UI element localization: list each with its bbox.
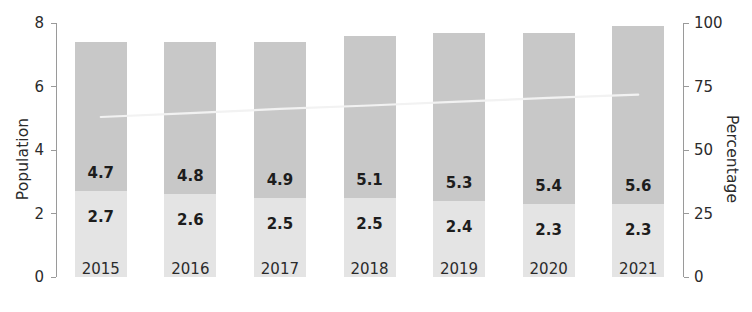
y-tick-right <box>684 23 689 24</box>
bar-value-label-top: 4.8 <box>164 169 216 184</box>
bar-group[interactable]: 2.35.4 <box>523 33 575 277</box>
bar-group[interactable]: 2.74.7 <box>75 42 127 277</box>
bar-value-label-top: 5.3 <box>433 176 485 191</box>
bar-value-label-top: 4.9 <box>254 173 306 188</box>
bar-group[interactable]: 2.55.1 <box>344 36 396 277</box>
bar-value-label-bottom: 2.3 <box>523 223 575 238</box>
y-tick-label-left: 4 <box>4 143 44 158</box>
bar-group[interactable]: 2.45.3 <box>433 33 485 277</box>
x-tick-label: 2016 <box>154 262 226 277</box>
chart-container: Population Percentage 024680255075100 2.… <box>0 0 752 312</box>
y-axis-label-right: Percentage <box>723 99 741 219</box>
y-tick-label-right: 75 <box>694 80 740 95</box>
x-tick-label: 2019 <box>423 262 495 277</box>
bar-value-label-bottom: 2.3 <box>612 223 664 238</box>
bar-value-label-bottom: 2.6 <box>164 213 216 228</box>
bar-group[interactable]: 2.35.6 <box>612 26 664 277</box>
y-tick-right <box>684 150 689 151</box>
y-tick-label-left: 8 <box>4 16 44 31</box>
bar-group[interactable]: 2.54.9 <box>254 42 306 277</box>
y-tick-label-left: 0 <box>4 270 44 285</box>
bar-value-label-bottom: 2.5 <box>254 217 306 232</box>
y-tick-label-right: 50 <box>694 143 740 158</box>
bar-value-label-top: 5.1 <box>344 173 396 188</box>
y-tick-right <box>684 213 689 214</box>
y-tick-label-right: 100 <box>694 16 740 31</box>
y-tick-label-left: 2 <box>4 207 44 222</box>
y-tick-label-right: 25 <box>694 207 740 222</box>
x-tick-label: 2020 <box>513 262 585 277</box>
y-tick-label-left: 6 <box>4 80 44 95</box>
bar-value-label-top: 5.6 <box>612 179 664 194</box>
x-tick-label: 2018 <box>334 262 406 277</box>
bar-value-label-bottom: 2.5 <box>344 217 396 232</box>
x-tick-label: 2015 <box>65 262 137 277</box>
x-tick-label: 2017 <box>244 262 316 277</box>
plot-area: 2.74.72.64.82.54.92.55.12.45.32.35.42.35… <box>56 23 683 277</box>
bar-value-label-top: 4.7 <box>75 166 127 181</box>
bar-value-label-bottom: 2.4 <box>433 220 485 235</box>
y-tick-label-right: 0 <box>694 270 740 285</box>
y-tick-right <box>684 86 689 87</box>
bar-value-label-top: 5.4 <box>523 179 575 194</box>
x-tick-label: 2021 <box>602 262 674 277</box>
bar-group[interactable]: 2.64.8 <box>164 42 216 277</box>
y-tick-right <box>684 277 689 278</box>
bar-value-label-bottom: 2.7 <box>75 210 127 225</box>
y-axis-label-left: Population <box>14 99 32 219</box>
